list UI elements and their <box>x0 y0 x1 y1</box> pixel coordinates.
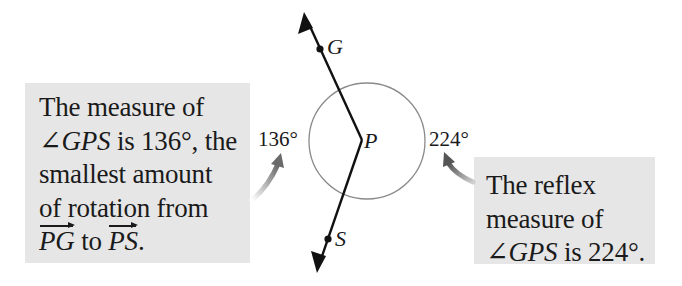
pointer-arrow-minor-icon <box>252 164 278 200</box>
angle-label-minor: 136° <box>258 127 298 152</box>
label-g: G <box>327 34 343 60</box>
pointer-arrow-reflex-icon <box>449 164 473 182</box>
label-p: P <box>364 128 377 154</box>
pointer-arrowhead-minor-icon <box>271 153 284 168</box>
label-s: S <box>335 226 346 252</box>
angle-label-reflex: 224° <box>429 127 469 152</box>
point-g <box>316 45 323 52</box>
point-s <box>324 235 331 242</box>
